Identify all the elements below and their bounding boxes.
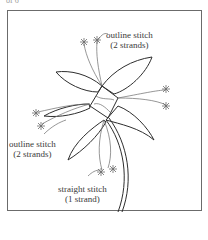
label-line1: outline stitch xyxy=(9,139,56,149)
star-icon xyxy=(162,102,170,110)
star-icon xyxy=(93,36,101,44)
label-straight-stitch: straight stitch (1 strand) xyxy=(58,184,107,204)
star-icon xyxy=(97,168,105,176)
star-icon xyxy=(109,165,117,173)
label-line2: (1 strand) xyxy=(58,194,107,204)
star-icon xyxy=(162,85,170,93)
star-icon xyxy=(37,122,45,130)
label-line1: outline stitch xyxy=(106,30,153,40)
flower-center xyxy=(90,86,118,118)
star-icon xyxy=(80,38,88,46)
petal-upper-right xyxy=(102,57,152,94)
label-line1: straight stitch xyxy=(58,184,107,194)
label-line2: (2 strands) xyxy=(9,149,56,159)
petal-lower-left xyxy=(68,120,106,160)
label-outline-stitch-left: outline stitch (2 strands) xyxy=(9,139,56,159)
label-line2: (2 strands) xyxy=(106,40,153,50)
thread-lines xyxy=(38,33,166,176)
star-icon xyxy=(32,109,40,117)
label-outline-stitch-top: outline stitch (2 strands) xyxy=(106,30,153,50)
stem-right xyxy=(109,118,128,212)
petal-lower-right xyxy=(106,106,154,140)
